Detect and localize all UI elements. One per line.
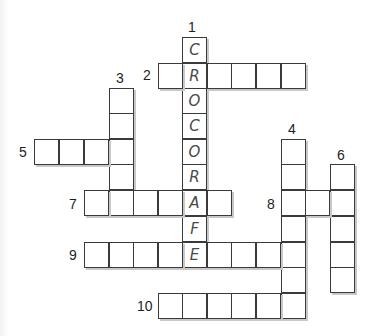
crossword-cell[interactable] [305, 190, 330, 216]
cell-letter: C [189, 41, 199, 59]
clue-number-10-across: 10 [137, 299, 153, 313]
cell-letter: R [189, 168, 199, 186]
cell-letter: R [189, 67, 199, 85]
crossword-cell[interactable]: E [182, 242, 207, 268]
crossword-cell[interactable] [256, 293, 281, 319]
crossword-cell[interactable] [330, 190, 355, 216]
crossword-cell[interactable] [330, 164, 355, 190]
clue-number-8-across: 8 [267, 197, 275, 211]
clue-number-4-down: 4 [288, 122, 296, 136]
cell-letter: E [190, 246, 199, 264]
crossword-cell[interactable] [330, 242, 355, 268]
crossword-cell[interactable] [182, 293, 207, 319]
crossword-cell[interactable] [109, 139, 134, 165]
clue-number-7-across: 7 [69, 197, 77, 211]
crossword-cell[interactable] [158, 242, 183, 268]
clue-number-1-down: 1 [188, 20, 196, 34]
crossword-cell[interactable]: C [182, 113, 207, 139]
crossword-cell[interactable] [281, 164, 306, 190]
cell-letter: A [189, 194, 199, 212]
crossword-cell[interactable]: O [182, 88, 207, 114]
crossword-cell[interactable]: R [182, 63, 207, 89]
crossword-cell[interactable]: R [182, 164, 207, 190]
clue-number-9-across: 9 [69, 248, 77, 262]
crossword-cell[interactable]: O [182, 139, 207, 165]
crossword-cell[interactable] [281, 293, 306, 319]
clue-number-2-across: 2 [143, 68, 151, 82]
crossword-cell[interactable] [207, 190, 232, 216]
crossword-cell[interactable] [281, 63, 306, 89]
crossword-cell[interactable] [256, 63, 281, 89]
crossword-cell[interactable] [84, 190, 109, 216]
crossword-cell[interactable]: A [182, 190, 207, 216]
crossword-cell[interactable] [158, 293, 183, 319]
crossword-cell[interactable] [231, 242, 256, 268]
clue-number-6-down: 6 [337, 148, 345, 162]
cell-letter: F [190, 220, 199, 238]
crossword-cell[interactable] [109, 113, 134, 139]
crossword-cell[interactable] [281, 216, 306, 242]
cell-letter: C [189, 117, 199, 135]
cell-letter: O [189, 143, 201, 161]
crossword-cell[interactable] [281, 267, 306, 293]
crossword-cell[interactable] [330, 216, 355, 242]
crossword-cell[interactable] [281, 242, 306, 268]
crossword-cell[interactable] [231, 63, 256, 89]
crossword-cell[interactable] [109, 242, 134, 268]
crossword-cell[interactable] [256, 242, 281, 268]
crossword-cell[interactable] [207, 242, 232, 268]
crossword-cell[interactable] [109, 88, 134, 114]
crossword-cell[interactable] [281, 139, 306, 165]
crossword-cell[interactable] [158, 190, 183, 216]
crossword-cell[interactable] [133, 190, 158, 216]
crossword-cell[interactable] [109, 190, 134, 216]
crossword-cell[interactable] [281, 190, 306, 216]
crossword-cell[interactable] [84, 139, 109, 165]
clue-number-3-down: 3 [116, 71, 124, 85]
crossword-cell[interactable] [109, 164, 134, 190]
crossword-cell[interactable] [207, 63, 232, 89]
cell-letter: O [189, 92, 201, 110]
crossword-cell[interactable] [158, 63, 183, 89]
crossword-cell[interactable] [59, 139, 84, 165]
crossword-board: 12345678910CROCORAFE [0, 0, 377, 336]
crossword-cell[interactable] [133, 242, 158, 268]
clue-number-5-across: 5 [19, 145, 27, 159]
crossword-cell[interactable] [207, 293, 232, 319]
crossword-cell[interactable] [34, 139, 59, 165]
crossword-cell[interactable]: F [182, 216, 207, 242]
crossword-cell[interactable] [84, 242, 109, 268]
crossword-cell[interactable] [330, 267, 355, 293]
crossword-cell[interactable] [231, 293, 256, 319]
crossword-cell[interactable]: C [182, 37, 207, 63]
